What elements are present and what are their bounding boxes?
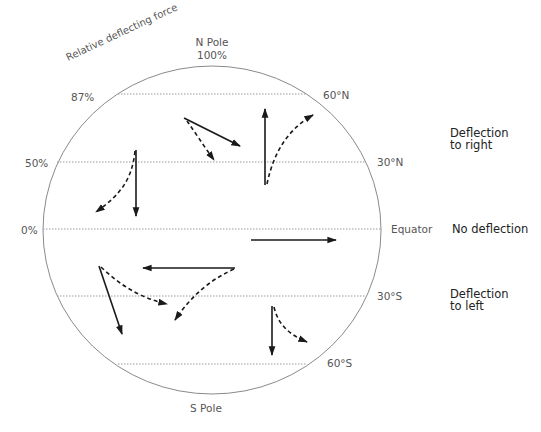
arrow-north-left-deflected — [96, 151, 135, 212]
diagram-title: Relative deflecting force — [64, 1, 179, 62]
north-pole-label: N Pole — [196, 36, 229, 48]
south-pole-label: S Pole — [190, 402, 222, 414]
latitude-label-60s: 60°S — [327, 357, 353, 369]
north-pole-force-label: 100% — [197, 49, 227, 61]
latitude-label-30s: 30°S — [377, 290, 403, 302]
globe-outline — [43, 66, 381, 394]
arrow-north-right-deflected — [267, 115, 313, 184]
arrow-north-mid-intended — [184, 118, 240, 146]
force-label-87: 87% — [71, 91, 94, 103]
arrow-south-right-deflected — [274, 307, 307, 342]
arrow-south-left-deflected — [101, 267, 167, 304]
deflection-right-label-line2: to right — [450, 138, 493, 152]
deflection-left-label-line2: to left — [450, 299, 484, 313]
latitude-label-30n: 30°N — [377, 156, 403, 168]
coriolis-deflection-diagram: Relative deflecting force N Pole 100% S … — [0, 0, 541, 432]
arrow-south-west-deflected — [175, 269, 234, 320]
force-label-50: 50% — [25, 157, 48, 169]
arrow-south-left-intended — [99, 266, 122, 334]
force-label-0: 0% — [21, 224, 38, 236]
latitude-label-equator: Equator — [391, 223, 433, 235]
no-deflection-label: No deflection — [452, 222, 528, 236]
latitude-label-60n: 60°N — [323, 89, 349, 101]
